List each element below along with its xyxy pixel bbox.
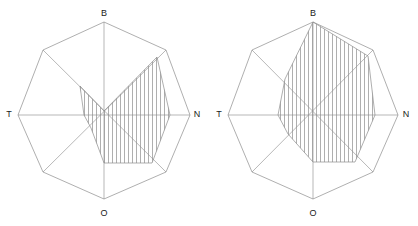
- right-axis-label-B: B: [310, 8, 316, 18]
- right-hatch-fill: [0, 0, 418, 226]
- left-axis-label-N: N: [194, 109, 201, 119]
- rose-diagram-figure: B N O T B N O T: [0, 0, 418, 226]
- right-axis-label-T: T: [216, 109, 222, 119]
- left-axis-label-O: O: [100, 208, 107, 218]
- left-axis-label-T: T: [6, 109, 12, 119]
- figure-canvas: B N O T B N O T: [0, 0, 418, 226]
- right-axis-label-O: O: [309, 208, 316, 218]
- left-axis-label-B: B: [101, 8, 107, 18]
- right-rose-diagram: B N O T: [0, 0, 418, 226]
- right-axis-label-N: N: [403, 109, 410, 119]
